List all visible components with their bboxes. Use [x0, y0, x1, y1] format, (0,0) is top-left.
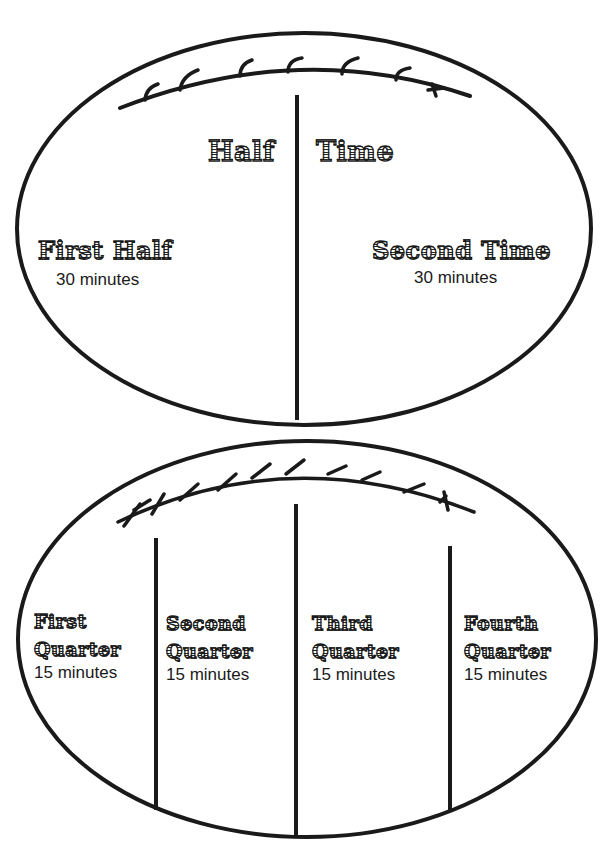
second-half-duration: 30 minutes: [414, 268, 497, 288]
first-half-title: First Half: [38, 236, 172, 265]
quarter-1: First Quarter 15 minutes: [34, 607, 121, 683]
half-time-title-right: Time: [316, 136, 394, 167]
quarter-1-title-line1: First: [34, 607, 121, 635]
quarter-3-title-line2: Quarter: [312, 637, 399, 665]
quarter-4-title-line2: Quarter: [464, 637, 551, 665]
diagram-canvas: [0, 0, 613, 846]
quarter-2-title-line2: Quarter: [166, 637, 253, 665]
quarter-4-title-line1: Fourth: [464, 609, 551, 637]
quarter-3-duration: 15 minutes: [312, 665, 399, 685]
quarter-3: Third Quarter 15 minutes: [312, 609, 399, 685]
quarter-2: Second Quarter 15 minutes: [166, 609, 253, 685]
quarter-4-duration: 15 minutes: [464, 665, 551, 685]
quarter-1-title-line2: Quarter: [34, 635, 121, 663]
quarter-2-title-line1: Second: [166, 609, 253, 637]
quarter-2-duration: 15 minutes: [166, 665, 253, 685]
quarter-1-duration: 15 minutes: [34, 663, 121, 683]
top-football-outline: [17, 33, 591, 425]
half-time-title-left: Half: [208, 136, 275, 167]
second-half-title: Second Time: [372, 236, 551, 265]
quarter-3-title-line1: Third: [312, 609, 399, 637]
top-football: [17, 33, 591, 425]
quarter-4: Fourth Quarter 15 minutes: [464, 609, 551, 685]
first-half-duration: 30 minutes: [56, 270, 139, 290]
bottom-football-laces: [124, 460, 448, 526]
